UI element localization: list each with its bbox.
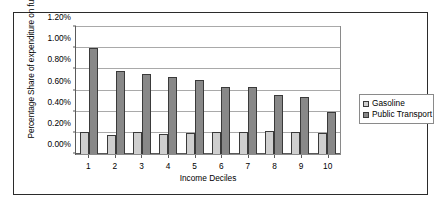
bar-public-transport-9 (300, 97, 309, 154)
y-tick-label: 0.60% (47, 76, 71, 86)
decile-group (287, 27, 313, 154)
bars-layer (76, 27, 340, 154)
bar-gasoline-1 (80, 132, 89, 154)
y-tick-label: 0.00% (47, 139, 71, 149)
y-tick-label: 0.40% (47, 97, 71, 107)
decile-group (261, 27, 287, 154)
x-tick-label: 6 (208, 161, 235, 171)
bar-public-transport-6 (221, 87, 230, 154)
decile-group (234, 27, 260, 154)
bar-gasoline-10 (318, 133, 327, 154)
x-tick-mark (195, 155, 196, 158)
x-tick-mark (88, 155, 89, 158)
x-tick-mark (274, 155, 275, 158)
bar-public-transport-3 (142, 74, 151, 154)
y-tick-label: 0.80% (47, 54, 71, 64)
x-tick-label: 10 (314, 161, 341, 171)
decile-group (182, 27, 208, 154)
bar-gasoline-9 (291, 132, 300, 154)
x-tick-label: 5 (181, 161, 208, 171)
x-tick-label: 3 (128, 161, 155, 171)
x-tick-mark (248, 155, 249, 158)
y-tick-label: 0.20% (47, 118, 71, 128)
decile-group (102, 27, 128, 154)
x-tick-label: 4 (155, 161, 182, 171)
x-tick-mark (301, 155, 302, 158)
bar-gasoline-4 (159, 134, 168, 154)
legend-label-public-transport: Public Transport (372, 109, 432, 120)
bar-gasoline-5 (186, 133, 195, 154)
x-axis-title: Income Deciles (75, 173, 341, 183)
bar-public-transport-7 (248, 87, 257, 154)
x-tick-mark (221, 155, 222, 158)
x-tick-mark (115, 155, 116, 158)
plot-area: 0.00%0.20%0.40%0.60%0.80%1.00%1.20% (75, 26, 341, 155)
x-tick-label: 7 (235, 161, 262, 171)
y-tick-label: 1.00% (47, 33, 71, 43)
x-tick-label: 9 (288, 161, 315, 171)
x-tick-mark (168, 155, 169, 158)
bar-public-transport-5 (195, 80, 204, 154)
legend-entry-gasoline: Gasoline (363, 98, 430, 109)
decile-group (155, 27, 181, 154)
bar-public-transport-4 (168, 77, 177, 154)
bar-public-transport-10 (327, 112, 336, 154)
bar-public-transport-1 (89, 48, 98, 154)
bar-public-transport-8 (274, 95, 283, 154)
bar-gasoline-8 (265, 131, 274, 154)
decile-group (314, 27, 340, 154)
x-tick-mark (141, 155, 142, 158)
legend-swatch-icon-public-transport (363, 112, 369, 118)
decile-group (76, 27, 102, 154)
chart-legend: Gasoline Public Transport (359, 94, 434, 124)
x-tick-mark (328, 155, 329, 158)
bar-gasoline-3 (133, 132, 142, 154)
bar-public-transport-2 (116, 71, 125, 154)
x-tick-label: 2 (102, 161, 129, 171)
legend-label-gasoline: Gasoline (372, 98, 405, 109)
decile-group (129, 27, 155, 154)
y-axis-title: Percentage Share of expenditure on fuel (26, 0, 36, 141)
bar-gasoline-6 (212, 132, 221, 154)
bar-gasoline-7 (239, 132, 248, 154)
bar-gasoline-2 (107, 135, 116, 154)
legend-swatch-icon-gasoline (363, 101, 369, 107)
chart-figure-frame: Percentage Share of expenditure on fuel … (13, 12, 428, 195)
y-tick-label: 1.20% (47, 12, 71, 22)
legend-entry-public-transport: Public Transport (363, 109, 430, 120)
x-tick-label: 1 (75, 161, 102, 171)
decile-group (208, 27, 234, 154)
x-tick-label: 8 (261, 161, 288, 171)
